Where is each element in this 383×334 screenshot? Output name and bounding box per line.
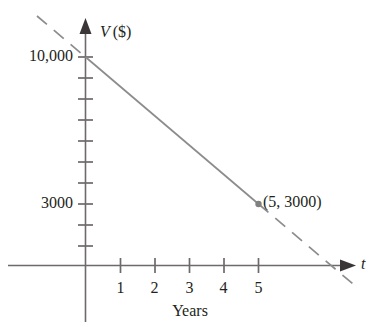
x-tick-label-4: 4: [209, 280, 238, 296]
dashed-extension-lower-right: [259, 204, 354, 284]
y-axis-unit: ($): [110, 23, 132, 40]
y-tick-label-10000: 10,000: [0, 48, 73, 64]
y-axis-variable: V: [100, 23, 110, 40]
x-tick-label-1: 1: [106, 280, 135, 296]
chart-figure: V($) t 10,000 3000 1 2 3 4 5 Years (5, 3…: [0, 0, 383, 334]
x-axis-caption-years: Years: [150, 303, 230, 319]
data-point-annotation: (5, 3000): [263, 194, 322, 210]
data-point-marker-5-3000: [255, 201, 261, 207]
x-tick-label-2: 2: [140, 280, 169, 296]
x-axis-label: t: [361, 256, 365, 272]
y-axis-arrowhead: [80, 18, 92, 34]
x-tick-label-3: 3: [175, 280, 204, 296]
x-axis-arrowhead: [340, 260, 356, 272]
y-axis-label: V($): [100, 24, 131, 40]
depreciation-line-solid: [86, 57, 259, 204]
y-tick-label-3000: 3000: [0, 195, 73, 211]
x-tick-label-5: 5: [244, 280, 273, 296]
